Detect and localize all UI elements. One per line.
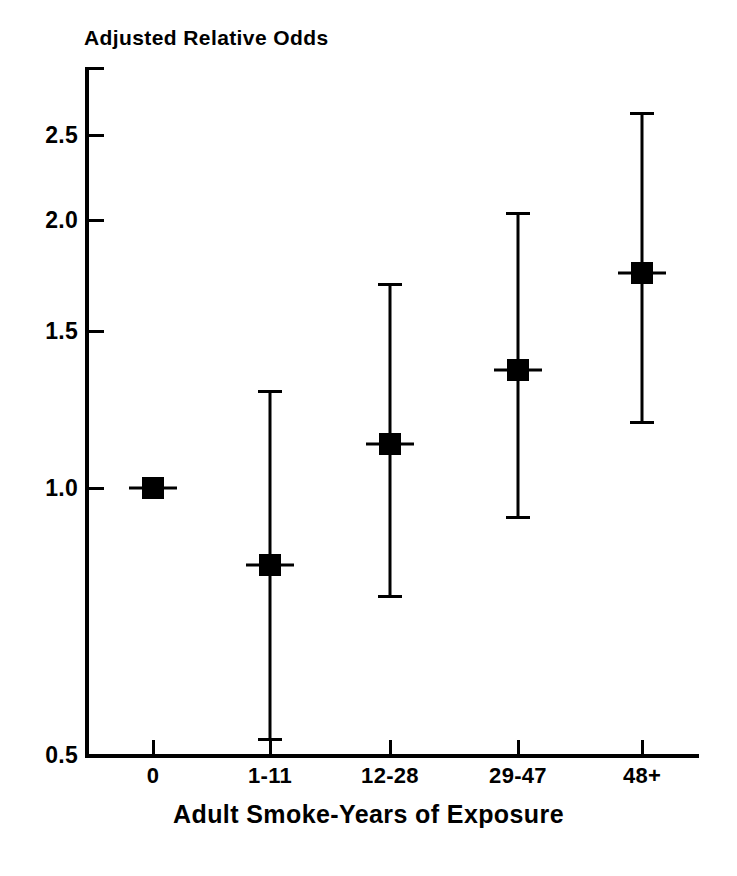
y-tick-label: 0.5 xyxy=(8,742,78,769)
data-point-marker xyxy=(259,554,281,576)
error-bar-lower-cap xyxy=(378,595,402,598)
error-bar-upper-cap xyxy=(378,283,402,286)
x-tick-mark xyxy=(641,740,644,755)
y-tick-label: 1.5 xyxy=(8,318,78,345)
x-tick-label: 0 xyxy=(147,763,160,789)
y-tick-mark xyxy=(89,754,104,757)
data-point-marker xyxy=(379,433,401,455)
y-tick-label: 1.0 xyxy=(8,475,78,502)
data-point-marker xyxy=(142,477,164,499)
error-bar-upper-cap xyxy=(506,212,530,215)
y-axis-top-cap xyxy=(89,67,104,70)
y-tick-label: 2.0 xyxy=(8,207,78,234)
error-bar-upper-cap xyxy=(630,112,654,115)
y-tick-mark xyxy=(89,487,104,490)
x-tick-label: 1-11 xyxy=(248,763,292,789)
error-bar-lower-cap xyxy=(506,516,530,519)
x-tick-mark xyxy=(389,740,392,755)
x-axis-line xyxy=(85,754,699,758)
y-tick-mark xyxy=(89,330,104,333)
data-point-marker xyxy=(507,359,529,381)
y-axis-line xyxy=(85,67,89,758)
x-tick-label: 48+ xyxy=(623,763,661,789)
chart-figure: Adjusted Relative Odds 2.52.01.51.00.5 0… xyxy=(0,0,737,876)
error-bar-lower-cap xyxy=(258,738,282,741)
y-tick-mark xyxy=(89,219,104,222)
error-bar-upper-cap xyxy=(258,390,282,393)
data-point-marker xyxy=(631,262,653,284)
error-bar-lower-cap xyxy=(630,421,654,424)
x-tick-label: 29-47 xyxy=(489,763,547,789)
x-tick-label: 12-28 xyxy=(361,763,419,789)
y-tick-label: 2.5 xyxy=(8,122,78,149)
x-tick-mark xyxy=(517,740,520,755)
x-tick-mark xyxy=(152,740,155,755)
chart-title: Adjusted Relative Odds xyxy=(84,26,329,50)
x-tick-mark xyxy=(269,740,272,755)
y-tick-mark xyxy=(89,134,104,137)
x-axis-title: Adult Smoke-Years of Exposure xyxy=(0,800,737,829)
